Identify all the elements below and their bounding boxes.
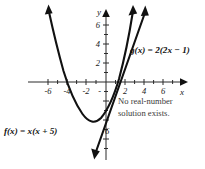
parabola-right-arrow-icon	[129, 5, 138, 15]
x-tick-label-2: 2	[123, 86, 128, 96]
y-tick-label-2: 2	[96, 58, 101, 68]
y-tick-label-4: 4	[96, 39, 101, 49]
x-tick-label-minus4: -4	[63, 86, 71, 96]
coordinate-plane: -6 -4 -2 2 4 6 6 4 2 - 6 x y g(x) = 2(2x…	[0, 0, 205, 169]
x-tick-label-6: 6	[161, 86, 166, 96]
annotation-line-1: No real-number	[118, 96, 173, 106]
line-g-curve	[96, 14, 145, 153]
parabola-left-arrow-icon	[45, 5, 53, 15]
graph-figure: -6 -4 -2 2 4 6 6 4 2 - 6 x y g(x) = 2(2x…	[0, 0, 205, 169]
x-axis-label: x	[179, 87, 184, 97]
x-tick-label-minus2: -2	[82, 86, 90, 96]
y-tick-label-6: 6	[96, 20, 101, 30]
line-g-up-arrow-icon	[141, 6, 149, 17]
x-tick-label-minus6: -6	[44, 86, 52, 96]
annotation-line-2: solution exists.	[118, 108, 170, 118]
y-axis-label: y	[96, 7, 101, 17]
function-label-g: g(x) = 2(2x − 1)	[129, 45, 190, 55]
y-tick-label-minus6: 6	[105, 126, 110, 136]
x-tick-label-4: 4	[142, 86, 147, 96]
y-axis-arrow-icon	[102, 9, 110, 17]
y-tick-label-minus2: -	[98, 86, 101, 96]
x-axis-arrow-icon	[180, 78, 188, 86]
function-label-f: f(x) = x(x + 5)	[4, 126, 57, 136]
line-g-down-arrow-icon	[91, 149, 100, 160]
